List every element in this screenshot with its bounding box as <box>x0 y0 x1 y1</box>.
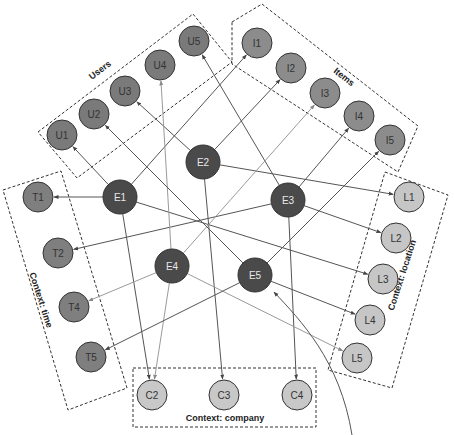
edge-e2-to-l1 <box>220 165 393 194</box>
edge-e2-to-c3 <box>205 179 223 379</box>
node-u3-label: U3 <box>119 86 132 97</box>
edge-e3-to-t2 <box>74 204 272 250</box>
node-c4[interactable]: C4 <box>282 380 312 410</box>
node-l3-label: L3 <box>377 274 389 285</box>
node-l5[interactable]: L5 <box>342 343 372 373</box>
node-t4-label: T4 <box>68 302 80 313</box>
node-e2-label: E2 <box>197 157 210 168</box>
edge-e5-to-t5 <box>105 283 239 350</box>
group-boxes: UsersItemsContext: timeContext: location… <box>3 4 448 427</box>
node-e5[interactable]: E5 <box>238 258 272 292</box>
node-t1[interactable]: T1 <box>23 182 53 212</box>
node-e2[interactable]: E2 <box>186 145 220 179</box>
node-l4-label: L4 <box>364 315 376 326</box>
node-l1[interactable]: L1 <box>394 182 424 212</box>
node-l4[interactable]: L4 <box>355 305 385 335</box>
node-l5-label: L5 <box>351 353 363 364</box>
edge-e3-to-i4 <box>299 128 349 187</box>
node-t2[interactable]: T2 <box>43 238 73 268</box>
curved-arrow-to-e5 <box>274 292 352 435</box>
node-u2[interactable]: U2 <box>79 99 109 129</box>
group-time-label: Context: time <box>27 271 54 329</box>
node-e5-label: E5 <box>249 270 262 281</box>
node-c3[interactable]: C3 <box>209 380 239 410</box>
group-company-label: Context: company <box>186 413 265 423</box>
node-i4[interactable]: I4 <box>344 101 374 131</box>
node-u2-label: U2 <box>88 109 101 120</box>
node-t2-label: T2 <box>52 248 64 259</box>
edge-e1-to-u1 <box>73 147 108 185</box>
node-t5-label: T5 <box>85 352 97 363</box>
node-i3[interactable]: I3 <box>310 78 340 108</box>
node-u1[interactable]: U1 <box>47 120 77 150</box>
node-t4[interactable]: T4 <box>59 292 89 322</box>
node-i5[interactable]: I5 <box>375 125 405 155</box>
node-l2-label: L2 <box>390 233 402 244</box>
node-c4-label: C4 <box>291 390 304 401</box>
node-u4[interactable]: U4 <box>145 50 175 80</box>
node-l2[interactable]: L2 <box>381 223 411 253</box>
node-u4-label: U4 <box>154 60 167 71</box>
node-l3[interactable]: L3 <box>368 264 398 294</box>
node-e3-label: E3 <box>282 195 295 206</box>
node-u1-label: U1 <box>56 130 69 141</box>
node-e4-label: E4 <box>166 261 179 272</box>
node-i2[interactable]: I2 <box>276 53 306 83</box>
node-i3-label: I3 <box>321 88 330 99</box>
node-t5[interactable]: T5 <box>76 342 106 372</box>
node-l1-label: L1 <box>403 192 415 203</box>
node-i2-label: I2 <box>287 63 296 74</box>
edge-e5-to-l4 <box>271 281 355 314</box>
edge-e4-to-t4 <box>89 273 157 301</box>
edge-e4-to-c2 <box>154 283 169 379</box>
node-i4-label: I4 <box>355 111 364 122</box>
node-e4[interactable]: E4 <box>155 249 189 283</box>
node-i1-label: I1 <box>253 38 262 49</box>
node-i1[interactable]: I1 <box>242 28 272 58</box>
node-t1-label: T1 <box>32 192 44 203</box>
node-u5[interactable]: U5 <box>179 26 209 56</box>
nodes: U1U2U3U4U5I1I2I3I4I5T1T2T4T5L1L2L3L4L5C2… <box>23 26 424 410</box>
edge-e2-to-i2 <box>215 80 280 150</box>
node-u5-label: U5 <box>188 36 201 47</box>
node-i5-label: I5 <box>386 135 395 146</box>
node-c2[interactable]: C2 <box>137 380 167 410</box>
node-e1-label: E1 <box>114 192 127 203</box>
group-users-label: Users <box>87 58 113 81</box>
edge-e1-to-c2 <box>123 214 150 379</box>
node-u3[interactable]: U3 <box>110 76 140 106</box>
edge-e4-to-u4 <box>161 81 171 249</box>
edge-e3-to-c4 <box>289 217 296 379</box>
node-e1[interactable]: E1 <box>103 180 137 214</box>
edge-e3-to-l2 <box>304 206 381 233</box>
node-e3[interactable]: E3 <box>271 183 305 217</box>
entity-context-diagram: UsersItemsContext: timeContext: location… <box>0 0 454 435</box>
node-c2-label: C2 <box>146 390 159 401</box>
node-c3-label: C3 <box>218 390 231 401</box>
